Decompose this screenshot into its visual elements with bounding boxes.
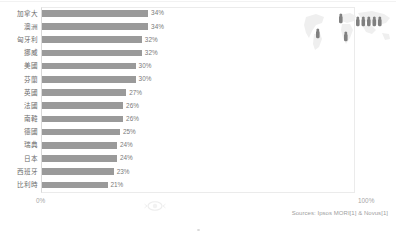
bar-value-label: 30% (139, 74, 152, 83)
bar-category-label: 南韓 (0, 115, 38, 123)
world-map-icon (300, 5, 394, 53)
bar-value-label: 23% (117, 167, 130, 176)
bar-row: 法國26% (0, 99, 396, 112)
bar-fill (42, 89, 126, 96)
bar-track: 25% (42, 126, 354, 139)
bar-value-label: 25% (123, 127, 136, 136)
bar-track: 26% (42, 113, 354, 126)
bar-category-label: 日本 (0, 155, 38, 163)
bar-category-label: 澳洲 (0, 23, 38, 31)
bar-row: 芬蘭30% (0, 73, 396, 86)
bar-value-label: 34% (151, 8, 164, 17)
bar-category-label: 比利時 (0, 181, 38, 189)
bar-category-label: 英國 (0, 89, 38, 97)
bar-category-label: 德國 (0, 128, 38, 136)
bar-value-label: 27% (129, 88, 142, 97)
bar-value-label: 24% (120, 140, 133, 149)
bar-track: 24% (42, 152, 354, 165)
bar-row: 南韓26% (0, 113, 396, 126)
bar-fill (42, 168, 114, 175)
slide-canvas: 加拿大34%澳洲34%匈牙利32%挪威32%美國30%芬蘭30%英國27%法國2… (0, 0, 396, 236)
bar-track: 30% (42, 73, 354, 86)
bar-fill (42, 76, 136, 83)
chart-source-note: Sources: Ipsos MORI[1] & Novus[1] (292, 210, 388, 216)
bar-row: 美國30% (0, 60, 396, 73)
bar-value-label: 26% (126, 101, 139, 110)
bar-row: 英國27% (0, 86, 396, 99)
bar-fill (42, 182, 108, 189)
bar-value-label: 21% (111, 180, 124, 189)
bar-category-label: 法國 (0, 102, 38, 110)
bar-fill (42, 142, 117, 149)
bar-row: 日本24% (0, 152, 396, 165)
slide-bottom-marker (197, 229, 200, 231)
bar-value-label: 26% (126, 114, 139, 123)
slide-top-divider (0, 1, 396, 2)
bar-fill (42, 10, 148, 17)
bar-track: 21% (42, 178, 354, 191)
bar-track: 23% (42, 165, 354, 178)
bar-category-label: 西班牙 (0, 168, 38, 176)
bar-row: 比利時21% (0, 178, 396, 191)
bar-category-label: 加拿大 (0, 10, 38, 18)
bar-category-label: 瑞典 (0, 141, 38, 149)
bar-value-label: 34% (151, 22, 164, 31)
bar-category-label: 挪威 (0, 49, 38, 57)
bar-category-label: 芬蘭 (0, 76, 38, 84)
bar-row: 德國25% (0, 126, 396, 139)
bar-fill (42, 129, 120, 136)
bar-fill (42, 23, 148, 30)
bar-fill (42, 36, 142, 43)
bar-track: 30% (42, 60, 354, 73)
bar-category-label: 美國 (0, 62, 38, 70)
bar-value-label: 24% (120, 153, 133, 162)
world-map-panel (300, 5, 394, 53)
bar-row: 西班牙23% (0, 165, 396, 178)
axis-tick-max: 100% (358, 197, 374, 204)
bar-track: 27% (42, 86, 354, 99)
bar-track: 26% (42, 99, 354, 112)
bar-value-label: 30% (139, 61, 152, 70)
bar-track: 24% (42, 139, 354, 152)
bar-fill (42, 63, 136, 70)
bar-fill (42, 116, 123, 123)
axis-tick-min: 0% (36, 197, 45, 204)
bar-row: 瑞典24% (0, 139, 396, 152)
ghost-watermark-icon (144, 199, 166, 213)
bar-value-label: 32% (145, 35, 158, 44)
bar-value-label: 32% (145, 48, 158, 57)
bar-category-label: 匈牙利 (0, 36, 38, 44)
bar-fill (42, 155, 117, 162)
bar-fill (42, 102, 123, 109)
bar-fill (42, 50, 142, 57)
